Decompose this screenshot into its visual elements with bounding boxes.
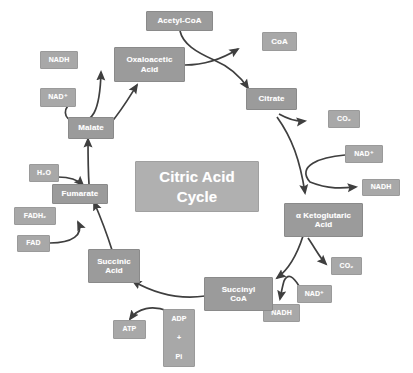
node-fadh2-label: FADH₂ bbox=[24, 212, 47, 220]
node-nadh-top-left: NADH bbox=[40, 51, 78, 69]
node-adp-pi-line-2: + bbox=[177, 334, 181, 342]
node-oxaloacetic-acid: Oxaloacetic Acid bbox=[114, 47, 185, 82]
node-alpha-ketoglutaric-acid-line-1: α Ketoglutaric bbox=[296, 211, 351, 220]
cycle-title-line-2: Cycle bbox=[177, 187, 218, 207]
node-co2-top-right-label: CO₂ bbox=[337, 115, 351, 123]
node-citrate: Citrate bbox=[246, 88, 297, 110]
node-fad: FAD bbox=[17, 235, 50, 252]
node-nad-plus-bottom-right: NAD⁺ bbox=[297, 285, 332, 303]
node-adp-pi-line-1: ADP bbox=[171, 315, 186, 323]
node-adp-pi-line-3: Pi bbox=[176, 353, 183, 361]
node-succinic-acid: Succinic Acid bbox=[88, 249, 140, 283]
cycle-title-line-1: Citric Acid bbox=[159, 167, 235, 187]
node-co2-bottom-right: CO₂ bbox=[331, 257, 362, 275]
node-oxaloacetic-acid-line-2: Acid bbox=[141, 65, 159, 74]
node-succinyl-coa: Succinyl CoA bbox=[204, 277, 273, 311]
node-coa-label: CoA bbox=[271, 37, 288, 46]
node-nadh-bottom-label: NADH bbox=[271, 309, 292, 317]
node-fadh2: FADH₂ bbox=[14, 207, 56, 225]
cycle-title-box: Citric Acid Cycle bbox=[135, 161, 259, 212]
node-succinyl-coa-line-1: Succinyl bbox=[222, 285, 256, 294]
node-co2-top-right: CO₂ bbox=[328, 110, 360, 128]
node-h2o-label: H₂O bbox=[37, 169, 51, 177]
node-alpha-ketoglutaric-acid: α Ketoglutaric Acid bbox=[284, 203, 363, 237]
node-fad-label: FAD bbox=[26, 239, 40, 247]
node-succinyl-coa-line-2: CoA bbox=[230, 294, 247, 303]
node-nad-plus-top-right: NAD⁺ bbox=[345, 145, 383, 163]
node-fumarate-label: Fumarate bbox=[62, 189, 99, 198]
node-acetyl-coa-label: Acetyl-CoA bbox=[157, 16, 201, 25]
node-citrate-label: Citrate bbox=[258, 94, 284, 103]
node-nadh-top-left-label: NADH bbox=[49, 56, 70, 64]
node-co2-bottom-right-label: CO₂ bbox=[340, 262, 354, 270]
node-alpha-ketoglutaric-acid-line-2: Acid bbox=[315, 220, 333, 229]
node-nad-plus-top-left-label: NAD⁺ bbox=[48, 93, 68, 101]
node-oxaloacetic-acid-line-1: Oxaloacetic bbox=[126, 55, 172, 64]
node-fumarate: Fumarate bbox=[52, 184, 108, 204]
node-acetyl-coa: Acetyl-CoA bbox=[146, 11, 213, 31]
node-malate: Malate bbox=[68, 117, 114, 139]
node-h2o: H₂O bbox=[29, 164, 59, 182]
node-atp-label: ATP bbox=[123, 325, 137, 333]
node-nadh-right-label: NADH bbox=[371, 183, 392, 191]
node-atp: ATP bbox=[113, 320, 146, 339]
node-nadh-right: NADH bbox=[362, 179, 400, 196]
node-nad-plus-top-right-label: NAD⁺ bbox=[354, 150, 374, 158]
node-nad-plus-bottom-right-label: NAD⁺ bbox=[305, 290, 325, 298]
node-malate-label: Malate bbox=[78, 123, 104, 132]
citric-acid-cycle-diagram: Citric Acid Cycle Acetyl-CoA Oxaloacetic… bbox=[0, 0, 413, 373]
node-succinic-acid-line-2: Acid bbox=[105, 266, 123, 275]
node-coa: CoA bbox=[262, 32, 297, 51]
node-nad-plus-top-left: NAD⁺ bbox=[40, 88, 76, 107]
node-adp-pi: ADP + Pi bbox=[163, 309, 195, 367]
node-succinic-acid-line-1: Succinic bbox=[97, 257, 131, 266]
